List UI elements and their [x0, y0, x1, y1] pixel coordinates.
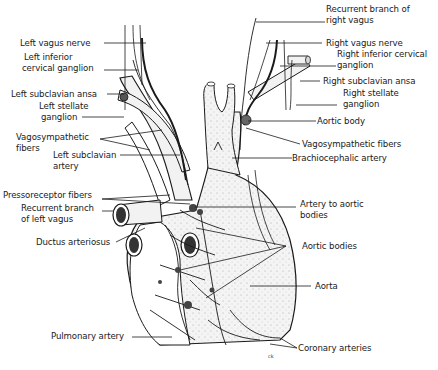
cut-vessel-left-pulmonary — [113, 200, 162, 226]
artist-signature: ck — [268, 353, 274, 359]
label-right-stellate-ganglion: Right stellate ganglion — [343, 88, 399, 109]
label-right-vagus-nerve: Right vagus nerve — [326, 38, 403, 49]
cut-vessel-lower-left — [126, 234, 142, 256]
label-brachiocephalic-artery: Brachiocephalic artery — [292, 153, 387, 164]
label-artery-to-aortic-bodies: Artery to aortic bodies — [300, 199, 364, 220]
label-vagosympathetic-fibers-right: Vagosympathetic fibers — [302, 139, 401, 150]
label-ductus-arteriosus: Ductus arteriosus — [36, 237, 110, 248]
label-pressoreceptor-fibers: Pressoreceptor fibers — [3, 190, 92, 201]
label-recurrent-branch-left-vagus: Recurrent branch of left vagus — [21, 203, 94, 224]
label-left-stellate-ganglion: Left stellate ganglion — [39, 101, 88, 122]
label-aortic-body: Aortic body — [317, 116, 365, 127]
label-aorta: Aorta — [315, 281, 338, 292]
label-aortic-bodies: Aortic bodies — [302, 241, 357, 252]
label-left-subclavian-ansa: Left subclavian ansa — [11, 89, 97, 100]
cut-vessel-center — [181, 233, 199, 257]
anatomical-diagram: ck Left vagus nerve Left inferior cervic… — [0, 0, 438, 370]
label-pulmonary-artery: Pulmonary artery — [51, 331, 124, 342]
label-left-vagus-nerve: Left vagus nerve — [20, 38, 90, 49]
label-recurrent-branch-right-vagus: Recurrent branch of right vagus — [326, 4, 410, 25]
label-left-inferior-cervical-ganglion: Left inferior cervical ganglion — [22, 52, 94, 73]
label-right-subclavian-ansa: Right subclavian ansa — [323, 76, 415, 87]
label-left-subclavian-artery: Left subclavian artery — [53, 150, 116, 171]
label-coronary-arteries: Coronary arteries — [298, 343, 371, 354]
label-right-inferior-cervical-ganglion: Right inferior cervical ganglion — [337, 49, 427, 70]
